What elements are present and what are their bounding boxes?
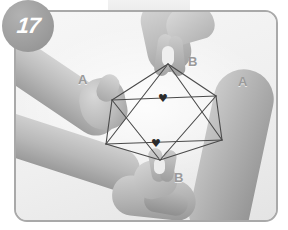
heart-upper-icon: ♥ [158, 92, 168, 105]
photo-frame: ♥ ♥ A A B B [14, 10, 278, 222]
step-number-badge: 17 [2, 0, 54, 52]
step-number-text: 17 [15, 13, 40, 39]
string-figure-diagram: ♥ ♥ [16, 12, 276, 220]
label-a-right: A [238, 74, 248, 89]
heart-lower-icon: ♥ [151, 137, 161, 150]
label-b-top: B [188, 54, 198, 69]
instruction-figure: ♥ ♥ A A B B 17 [0, 0, 288, 230]
string-top-to-bottom-right [168, 64, 222, 140]
label-a-left: A [78, 72, 88, 87]
label-b-bottom: B [174, 170, 184, 185]
string-bottom-to-left-hand [112, 100, 160, 160]
string-lower-rung [106, 140, 222, 144]
